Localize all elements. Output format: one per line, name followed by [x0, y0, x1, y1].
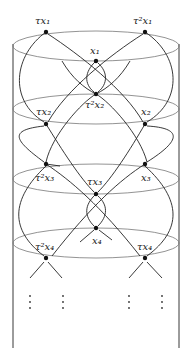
node-tx4	[143, 256, 147, 260]
node-tx2	[44, 122, 48, 126]
node-tx3	[94, 192, 98, 196]
label-tx2: τx₂	[36, 106, 51, 117]
node-t2x3	[44, 162, 48, 166]
node-t2x1	[143, 30, 147, 34]
label-tx3: τx₃	[87, 176, 102, 187]
node-tx1	[44, 30, 48, 34]
label-x1: x₁	[90, 45, 100, 56]
node-labels: τx₁ τ²x₁ x₁ τ²x₂ τx₂ x₂ τ²x₃ x₃ τx₃ x₄ τ…	[35, 15, 152, 252]
label-t2x2: τ²x₂	[85, 99, 104, 110]
node-x1	[94, 59, 98, 63]
cylinder-diagram: τx₁ τ²x₁ x₁ τ²x₂ τx₂ x₂ τ²x₃ x₃ τx₃ x₄ τ…	[0, 0, 189, 362]
label-x2: x₂	[141, 106, 151, 117]
node-t2x2	[94, 92, 98, 96]
node-t2x4	[44, 256, 48, 260]
label-tx1: τx₁	[35, 15, 50, 26]
label-t2x1: τ²x₁	[133, 15, 152, 26]
label-t2x3: τ²x₃	[35, 172, 54, 183]
label-tx4: τx₄	[137, 241, 152, 252]
label-x3: x₃	[141, 172, 151, 183]
continuation-dots	[29, 295, 163, 309]
node-x2	[143, 122, 147, 126]
label-x4: x₄	[92, 235, 102, 246]
node-x4	[94, 226, 98, 230]
node-x3	[143, 162, 147, 166]
label-t2x4: τ²x₄	[35, 241, 54, 252]
